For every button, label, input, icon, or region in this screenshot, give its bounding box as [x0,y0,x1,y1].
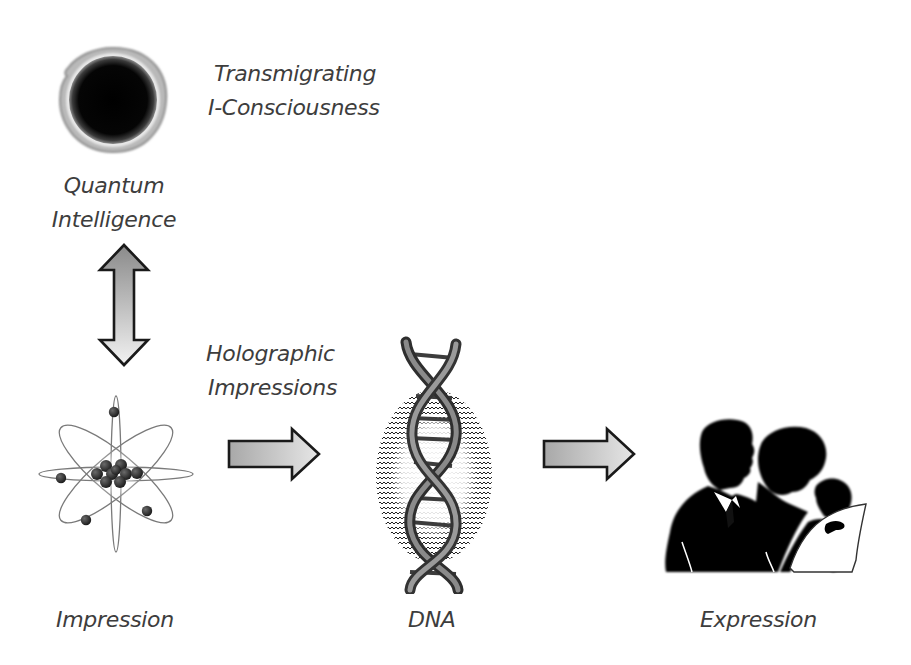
transmigrating-label-line1: Transmigrating [208,57,380,91]
family-silhouette-icon [660,412,872,582]
quantum-label-line2: Intelligence [46,203,182,237]
expression-label: Expression [700,603,817,637]
atom-icon [34,394,198,556]
holographic-label-line2: Impressions [206,371,337,405]
right-arrow-icon [541,426,637,482]
holographic-impressions-label: Holographic Impressions [206,337,337,405]
dna-helix-icon [370,336,498,594]
bidirectional-arrow-icon [96,242,152,368]
holographic-label-line1: Holographic [206,337,337,371]
quantum-intelligence-label: Quantum Intelligence [46,169,182,237]
transmigrating-label-line2: I-Consciousness [208,91,380,125]
transmigrating-i-consciousness-label: Transmigrating I-Consciousness [208,57,380,125]
impression-label: Impression [56,603,174,637]
black-hole-sphere-icon [56,44,170,156]
quantum-label-line1: Quantum [46,169,182,203]
dna-label: DNA [408,603,456,637]
right-arrow-icon [226,426,322,482]
